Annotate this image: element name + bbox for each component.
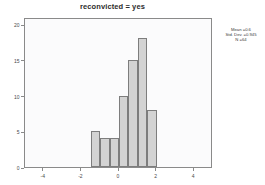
plot-area [25, 19, 211, 167]
chart-title: reconvicted = yes [0, 2, 225, 11]
histogram-bar [119, 96, 128, 167]
x-tick-label: -2 [72, 172, 88, 180]
x-tick-label: -4 [35, 172, 51, 180]
histogram-bar [128, 60, 137, 167]
x-tick-mark [193, 168, 194, 171]
y-tick-label: 15 [14, 57, 20, 65]
x-tick-mark [80, 168, 81, 171]
stat-n: N =64 [218, 37, 264, 42]
x-axis: -4-2024 [24, 168, 212, 184]
histogram-bar [100, 138, 109, 167]
y-tick-label: 10 [14, 93, 20, 101]
plot-frame [24, 18, 212, 168]
histogram-bar [138, 38, 147, 167]
statistics-annotation: Mean =0.6 Std. Dev. =0.945 N =64 [218, 27, 264, 42]
y-tick-label: 20 [14, 21, 20, 29]
x-tick-mark [42, 168, 43, 171]
histogram-bar [91, 131, 100, 167]
y-tick-label: 5 [17, 128, 20, 136]
histogram-chart: reconvicted = yes 05101520 -4-2024 Mean … [0, 0, 265, 185]
y-axis: 05101520 [0, 18, 24, 168]
histogram-bar [147, 110, 156, 167]
x-tick-mark [118, 168, 119, 171]
y-tick-label: 0 [17, 164, 20, 172]
x-tick-label: 4 [185, 172, 201, 180]
x-tick-label: 0 [110, 172, 126, 180]
x-tick-mark [155, 168, 156, 171]
x-tick-label: 2 [148, 172, 164, 180]
histogram-bar [110, 138, 119, 167]
